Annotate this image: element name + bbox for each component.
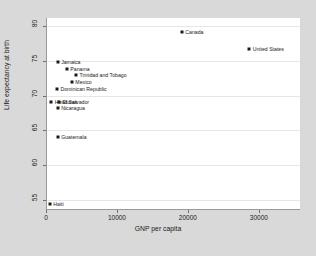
data-point-label: Mexico — [75, 79, 91, 85]
y-tick-mark — [43, 26, 46, 27]
data-point[interactable] — [55, 88, 58, 91]
y-tick-mark — [43, 165, 46, 166]
x-tick-mark — [188, 210, 189, 213]
y-tick-label: 80 — [31, 20, 38, 27]
data-point[interactable] — [58, 100, 61, 103]
data-point-label: Guatemala — [61, 134, 86, 140]
y-axis-title: Life expectancy at birth — [3, 40, 10, 110]
data-point-label: El Salvador — [63, 99, 90, 105]
data-point-label: Canada — [185, 29, 203, 35]
plot-area: CanadaUnited StatesJamaicaPanamaTrinidad… — [46, 18, 300, 210]
x-tick-label: 0 — [44, 214, 48, 221]
data-point-label: Panama — [70, 66, 89, 72]
gridline-y-80 — [47, 26, 300, 27]
data-point[interactable] — [50, 100, 53, 103]
y-tick-label: 60 — [31, 159, 38, 166]
y-tick-label: 70 — [31, 90, 38, 97]
data-point[interactable] — [56, 107, 59, 110]
y-tick-label: 55 — [31, 194, 38, 201]
x-tick-mark — [117, 210, 118, 213]
gridline-y-65 — [47, 130, 300, 131]
data-point[interactable] — [65, 67, 68, 70]
data-point-label: Trinidad and Tobago — [80, 72, 127, 78]
x-tick-mark — [46, 210, 47, 213]
x-tick-label: 30000 — [250, 214, 268, 221]
y-tick-label: 65 — [31, 124, 38, 131]
data-point[interactable] — [56, 61, 59, 64]
data-point-label: Nicaragua — [61, 105, 85, 111]
data-point[interactable] — [56, 136, 59, 139]
gridline-y-75 — [47, 61, 300, 62]
scatter-chart-figure: CanadaUnited StatesJamaicaPanamaTrinidad… — [0, 0, 316, 256]
gridline-y-70 — [47, 96, 300, 97]
y-tick-mark — [43, 96, 46, 97]
data-point-label: Jamaica — [61, 59, 80, 65]
data-point[interactable] — [70, 80, 73, 83]
x-tick-mark — [259, 210, 260, 213]
x-tick-label: 20000 — [179, 214, 197, 221]
data-point[interactable] — [75, 73, 78, 76]
data-point[interactable] — [180, 30, 183, 33]
y-tick-label: 75 — [31, 55, 38, 62]
y-tick-mark — [43, 130, 46, 131]
x-axis-title: GNP per capita — [0, 225, 316, 232]
y-tick-mark — [43, 200, 46, 201]
data-point-label: United States — [253, 46, 284, 52]
gridline-y-55 — [47, 200, 300, 201]
x-tick-label: 10000 — [108, 214, 126, 221]
data-point[interactable] — [48, 203, 51, 206]
data-point-label: Haiti — [53, 201, 63, 207]
data-point[interactable] — [248, 48, 251, 51]
data-point-label: Dominican Republic — [60, 86, 106, 92]
y-tick-mark — [43, 61, 46, 62]
gridline-y-60 — [47, 165, 300, 166]
